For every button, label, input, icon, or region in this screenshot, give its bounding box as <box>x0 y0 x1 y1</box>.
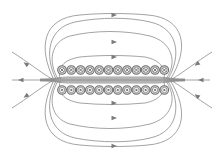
cross-in-circle-icon <box>114 66 123 75</box>
dot-in-circle-icon <box>76 86 85 95</box>
cross-in-circle-icon <box>141 66 150 75</box>
cross-in-circle-icon <box>86 66 95 75</box>
dot-in-circle-icon <box>67 86 76 95</box>
cross-in-circle-icon <box>160 66 169 75</box>
dot-in-circle-icon <box>160 86 169 95</box>
right-fan-bottom <box>172 81 212 108</box>
cross-in-circle-icon <box>151 66 160 75</box>
inner-field-line <box>40 80 185 81</box>
cross-in-circle-icon <box>58 66 67 75</box>
dot-in-circle-icon <box>58 86 67 95</box>
cross-in-circle-icon <box>67 66 76 75</box>
inner-field-line <box>40 79 185 80</box>
cross-in-circle-icon <box>76 66 85 75</box>
cross-in-circle-icon <box>95 66 104 75</box>
dot-in-circle-icon <box>151 86 160 95</box>
cross-in-circle-icon <box>123 66 132 75</box>
arrowhead-icon <box>112 144 118 149</box>
dot-in-circle-icon <box>132 86 141 95</box>
dot-in-circle-icon <box>86 86 95 95</box>
dot-in-circle-icon <box>114 86 123 95</box>
dot-in-circle-icon <box>95 86 104 95</box>
arrowhead-icon <box>198 78 204 83</box>
dot-in-circle-icon <box>123 86 132 95</box>
dot-in-circle-icon <box>104 86 113 95</box>
dot-in-circle-icon <box>141 86 150 95</box>
arrowhead-icon <box>18 78 24 83</box>
arrowhead-icon <box>112 40 118 45</box>
right-fan-top <box>172 52 212 79</box>
arrowhead-icon <box>112 116 118 121</box>
cross-in-circle-icon <box>132 66 141 75</box>
field-lines <box>12 14 212 147</box>
cross-in-circle-icon <box>104 66 113 75</box>
solenoid-field-diagram <box>0 0 221 164</box>
